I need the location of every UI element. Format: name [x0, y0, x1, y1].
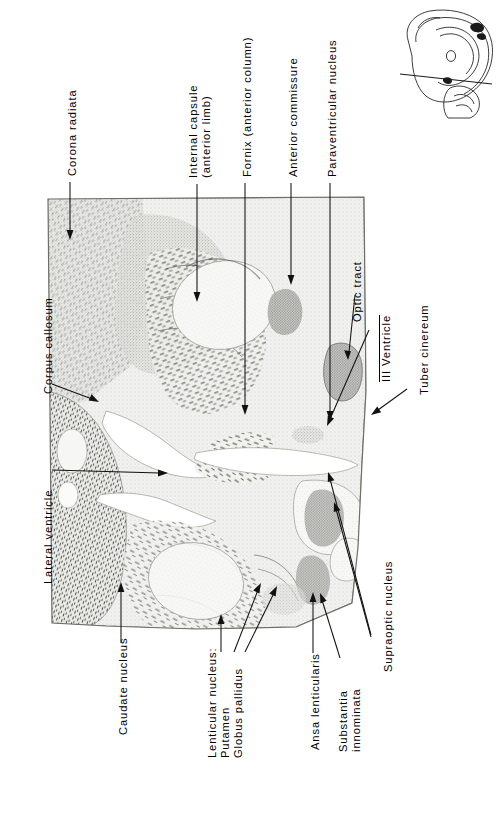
- label-text: Tuber cinereum: [418, 304, 432, 395]
- label-substantia-innominata: Substantia innominata: [337, 688, 363, 752]
- atlas-plate: Corona radiata Internal capsule (anterio…: [0, 0, 498, 814]
- label-text: Corpus callosum: [42, 297, 56, 394]
- label-text: Optic tract: [351, 261, 365, 322]
- label-paraventricular-nucleus: Paraventricular nucleus: [326, 39, 340, 177]
- label-text-line2: innominata: [350, 688, 363, 752]
- label-text-line3: Globus pallidus: [232, 648, 245, 758]
- label-lenticular-nucleus: Lenticular nucleus: Putamen Globus palli…: [206, 648, 246, 758]
- label-text-line1: Lenticular nucleus:: [206, 648, 219, 758]
- inset-brain-drawing: [392, 4, 496, 120]
- label-text-line1: Substantia: [337, 688, 350, 752]
- label-text-line2: (anterior limb): [200, 85, 213, 178]
- label-text: Caudate nucleus: [117, 638, 131, 735]
- label-supraoptic-nucleus: Supraoptic nucleus: [382, 561, 396, 672]
- orientation-inset: [392, 4, 496, 120]
- label-corpus-callosum: Corpus callosum: [42, 297, 56, 394]
- label-fornix: Fornix (anterior column): [241, 37, 255, 177]
- label-corona-radiata: Corona radiata: [66, 89, 80, 176]
- label-internal-capsule: Internal capsule (anterior limb): [187, 85, 213, 178]
- label-caudate-nucleus: Caudate nucleus: [117, 638, 131, 735]
- label-anterior-commissure: Anterior commissure: [287, 57, 301, 177]
- label-text: Ansa lenticularis: [309, 653, 323, 750]
- label-optic-tract: Optic tract: [351, 261, 365, 322]
- label-text: Anterior commissure: [287, 57, 301, 177]
- label-text: Supraoptic nucleus: [382, 561, 396, 672]
- label-text: Lateral ventricle: [42, 490, 56, 584]
- label-text: Corona radiata: [66, 89, 80, 176]
- label-text-line2: Putamen: [219, 648, 232, 758]
- label-text-line1: Internal capsule: [187, 85, 200, 178]
- label-third-ventricle: III Ventricle: [380, 315, 394, 382]
- histology-section-image: [46, 195, 368, 631]
- label-text: III Ventricle: [380, 315, 394, 382]
- label-ansa-lenticularis: Ansa lenticularis: [309, 653, 323, 750]
- label-text: Paraventricular nucleus: [326, 39, 340, 177]
- label-text: Fornix (anterior column): [241, 37, 255, 177]
- label-lateral-ventricle: Lateral ventricle: [42, 490, 56, 584]
- label-tuber-cinereum: Tuber cinereum: [418, 304, 432, 395]
